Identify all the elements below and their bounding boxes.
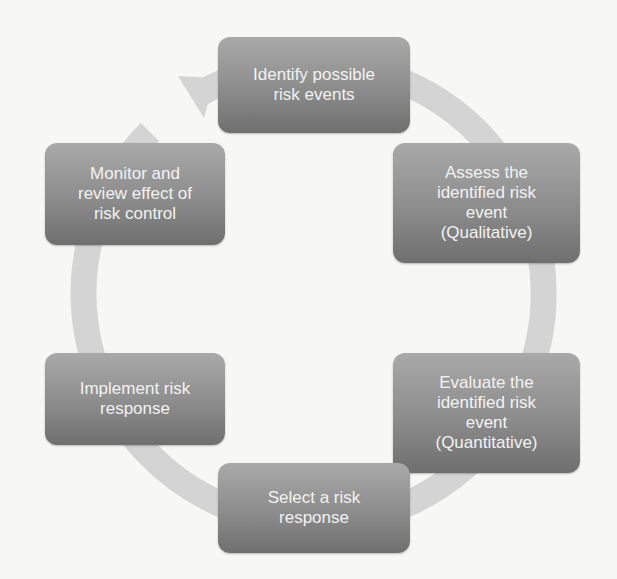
step-implement-risk-response: Implement risk response	[45, 353, 225, 445]
step-identify-risk-events: Identify possible risk events	[218, 37, 410, 133]
step-monitor-and-review: Monitor and review effect of risk contro…	[45, 143, 225, 245]
step-evaluate-quantitative: Evaluate the identified risk event (Quan…	[393, 353, 580, 473]
arrowhead-icon	[178, 76, 215, 118]
step-select-risk-response: Select a risk response	[218, 463, 410, 553]
step-assess-qualitative: Assess the identified risk event (Qualit…	[393, 143, 580, 263]
